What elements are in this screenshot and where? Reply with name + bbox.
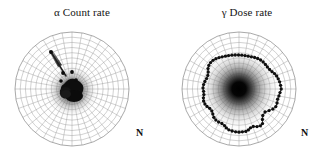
gamma-polar-plot <box>165 24 329 160</box>
alpha-north-label: N <box>136 128 143 138</box>
panel-gamma-title: γ Dose rate <box>165 6 329 19</box>
panel-alpha-title: α Count rate <box>0 6 164 19</box>
gamma-dose-core <box>195 45 283 133</box>
panel-alpha-count-rate: α Count rate <box>0 0 164 166</box>
panel-gamma-dose-rate: γ Dose rate <box>165 0 329 166</box>
alpha-polar-plot <box>0 24 164 160</box>
gamma-north-label: N <box>301 128 308 138</box>
polar-radiation-figure: α Count rate <box>0 0 329 166</box>
